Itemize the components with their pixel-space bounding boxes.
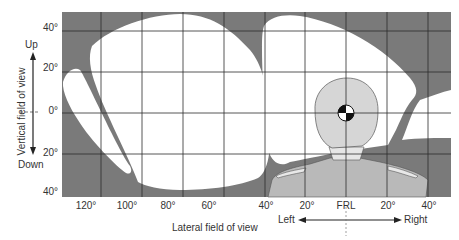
left-label: Left <box>278 215 295 225</box>
y-tick-40-down: 40° <box>36 187 58 197</box>
up-label: Up <box>25 40 38 50</box>
left-right-arrow <box>298 217 402 223</box>
right-label: Right <box>404 215 427 225</box>
x-tick-40-left: 40° <box>251 201 281 211</box>
x-tick-20-right: 20° <box>373 201 403 211</box>
occupant-neck <box>329 147 364 160</box>
y-tick-0: 0° <box>36 106 58 116</box>
down-label: Down <box>18 160 44 170</box>
x-tick-40-right: 40° <box>414 201 444 211</box>
vertical-axis-title: Vertical field of view <box>16 57 27 167</box>
x-tick-20-left: 20° <box>292 201 322 211</box>
x-tick-frl: FRL <box>331 201 361 211</box>
lateral-axis-title: Lateral field of view <box>172 223 258 233</box>
x-tick-120: 120° <box>71 201 101 211</box>
eye-point-marker <box>338 105 354 121</box>
x-tick-60: 60° <box>194 201 224 211</box>
x-tick-80: 80° <box>153 201 183 211</box>
x-tick-100: 100° <box>112 201 142 211</box>
y-tick-20-up: 20° <box>36 63 58 73</box>
y-tick-20-down: 20° <box>36 148 58 158</box>
y-tick-40-up: 40° <box>36 23 58 33</box>
